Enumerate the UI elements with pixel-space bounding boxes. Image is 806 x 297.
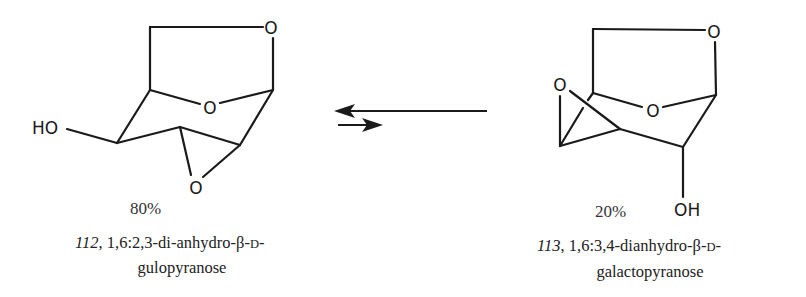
compound-number-113: 113 [537, 236, 561, 255]
caption-113-line2: galactopyranose [596, 262, 703, 281]
bond-c3-epoxo [180, 127, 191, 175]
atom-ring-oxygen: O [646, 101, 659, 121]
compound-number-112: 112 [75, 233, 99, 252]
bond-c5-ringo [150, 90, 200, 104]
equilibrium-scheme: O O O HO 80% 112, 1,6:2,3-di-anhydro-β-D… [0, 0, 806, 297]
atom-hydroxyl: HO [32, 118, 58, 138]
bond-c1-c2 [683, 95, 716, 147]
bond-c2-c3 [620, 129, 683, 147]
caption-112-line1: 112, 1,6:2,3-di-anhydro-β-D- [75, 233, 264, 252]
equilibrium-arrows [334, 104, 487, 132]
long-left-arrow [334, 104, 487, 118]
bond-ho-c4 [67, 129, 117, 143]
bond-o-c1 [715, 42, 716, 95]
caption-112-line2: gulopyranose [138, 258, 227, 277]
atom-top-oxygen: O [707, 22, 720, 42]
bond-c3-c2 [180, 127, 240, 145]
caption-113-line1: 113, 1,6:3,4-dianhydro-β-D- [537, 236, 721, 255]
atom-hydroxyl: OH [674, 200, 700, 220]
atom-epoxide-oxygen: O [553, 75, 566, 95]
percentage-112: 80% [130, 199, 161, 218]
bond-ringo-c1 [663, 95, 716, 107]
percentage-113: 20% [595, 202, 626, 221]
bond-c4-c5-back [588, 93, 593, 100]
short-right-arrow [338, 118, 383, 132]
bond-c2-c1 [240, 90, 273, 145]
bond-epoxo-c3 [570, 91, 620, 129]
bond-c6-o [593, 29, 705, 30]
molecule-113: O O O OH [553, 22, 720, 220]
atom-top-oxygen: O [264, 18, 277, 38]
molecule-112: O O O HO [32, 18, 278, 198]
atom-epoxide-oxygen: O [189, 178, 202, 198]
bond-c5-ringo [593, 93, 642, 107]
atom-ring-oxygen: O [203, 98, 216, 118]
bond-ringo-c1 [220, 90, 273, 103]
bond-c2-epoxo [203, 145, 240, 177]
